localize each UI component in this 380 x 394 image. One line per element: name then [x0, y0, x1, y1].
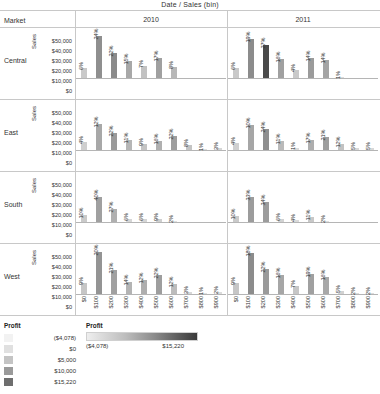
bar[interactable]	[96, 36, 102, 78]
year-header-2010[interactable]: 2010	[76, 13, 226, 27]
bar-slot: 4%	[228, 101, 243, 150]
bar-slot: 3%	[181, 245, 196, 294]
bar-slot: 14%	[318, 29, 333, 78]
profit-legend-discrete: Profit ($4,078)$0$5,000$10,000$15,220	[4, 322, 76, 387]
bar-percent-label: 24%	[93, 28, 99, 39]
year-header-2011[interactable]: 2011	[228, 13, 378, 27]
chart-columns-title: Date / Sales (bin)	[0, 1, 380, 8]
y-axis-tick-label: $50,000	[52, 254, 72, 260]
x-tick-slot: $400	[288, 295, 303, 307]
y-axis-ticks: $50,000$40,000$30,000$20,000$10,000$0	[36, 245, 72, 307]
x-axis-tick-label: $500	[304, 296, 310, 308]
chart-row: WestSales$50,000$40,000$30,000$20,000$10…	[0, 243, 380, 315]
bar-percent-label: 22%	[168, 128, 174, 139]
bar-slot	[348, 29, 363, 78]
y-axis-tick-label: $20,000	[52, 140, 72, 146]
bar-percent-label: 6%	[275, 213, 281, 221]
bar-slot: 5%	[348, 101, 363, 150]
bar-percent-label: 11%	[275, 134, 281, 145]
x-axis-tick-label: $900	[364, 296, 370, 308]
chart-row: EastSales$50,000$40,000$30,000$20,000$10…	[0, 99, 380, 171]
x-tick-slot: $300	[273, 295, 288, 307]
legend-swatch-icon	[4, 356, 13, 364]
legend-entry[interactable]: $5,000	[4, 354, 76, 365]
bar[interactable]	[248, 197, 254, 222]
bar[interactable]	[96, 197, 102, 222]
bar-slot: 12%	[136, 245, 151, 294]
bar-slot: 18%	[243, 245, 258, 294]
bar-percent-label: 7%	[138, 60, 144, 68]
profit-gradient-bar[interactable]	[86, 332, 198, 341]
bar-slot: 2%	[348, 245, 363, 294]
bar-slot: 16%	[151, 101, 166, 150]
row-label-central[interactable]: Central	[4, 57, 27, 64]
y-axis-tick-label: $10,000	[52, 294, 72, 300]
bar-percent-label: 17%	[305, 132, 311, 143]
bar-percent-label: 14%	[320, 52, 326, 63]
x-axis-tick-label: $800	[197, 296, 203, 308]
bar-percent-label: 6%	[138, 213, 144, 221]
bar[interactable]	[111, 53, 117, 78]
bar-slot: 22%	[106, 101, 121, 150]
bar[interactable]	[248, 253, 254, 294]
bar-percent-label: 2%	[213, 286, 219, 294]
y-axis-tick-label: $10,000	[52, 222, 72, 228]
x-tick-slot: $700	[181, 295, 196, 307]
bar-slot: 12%	[91, 101, 106, 150]
y-axis-tick-label: $10,000	[52, 150, 72, 156]
bar-slot: 6%	[273, 173, 288, 222]
bar[interactable]	[96, 124, 102, 150]
bar-percent-label: 1%	[335, 71, 341, 79]
bar-slot: 20%	[91, 245, 106, 294]
bar-slot: 21%	[318, 101, 333, 150]
bar-percent-label: 10%	[245, 117, 251, 128]
legend-entry-label: $0	[17, 346, 76, 352]
bar-group: 4%12%22%11%9%16%22%8%1%3%	[76, 101, 226, 150]
bar[interactable]	[263, 269, 269, 294]
legend-entry[interactable]: ($4,078)	[4, 332, 76, 343]
bar-slot: 40%	[91, 173, 106, 222]
x-axis-tick-label: $100	[92, 296, 98, 308]
bar-percent-label: 22%	[260, 261, 266, 272]
row-label-south[interactable]: South	[4, 201, 22, 208]
x-axis-tick-label: $500	[152, 296, 158, 308]
bar-slot: 34%	[258, 173, 273, 222]
bar-percent-label: 4%	[230, 137, 236, 145]
legend-entry[interactable]: $10,000	[4, 365, 76, 376]
legend-entry[interactable]: $0	[4, 343, 76, 354]
bar[interactable]	[248, 125, 254, 150]
x-tick-slot: $800	[196, 295, 211, 307]
y-axis-tick-label: $30,000	[52, 202, 72, 208]
legend-entry[interactable]: $15,220	[4, 376, 76, 387]
bar-percent-label: 8%	[183, 139, 189, 147]
bar-group: 10%40%27%6%6%9%2%	[76, 173, 226, 222]
bar-percent-label: 19%	[305, 266, 311, 277]
bar-percent-label: 27%	[260, 37, 266, 48]
bar-percent-label: 20%	[93, 244, 99, 255]
x-tick-slot: $400	[136, 295, 151, 307]
bar-percent-label: 7%	[290, 280, 296, 288]
row-label-west[interactable]: West	[4, 273, 20, 280]
bar-percent-label: 15%	[123, 53, 129, 64]
y-axis-tick-label: $30,000	[52, 274, 72, 280]
row-label-east[interactable]: East	[4, 129, 18, 136]
profit-gradient-max-label: $15,220	[162, 343, 184, 349]
bar-slot: 14%	[121, 245, 136, 294]
bar-percent-label: 16%	[153, 133, 159, 144]
bar[interactable]	[96, 252, 102, 294]
bar-percent-label: 17%	[153, 50, 159, 61]
bar[interactable]	[248, 39, 254, 78]
bar-percent-label: 40%	[93, 189, 99, 200]
bar[interactable]	[263, 45, 269, 78]
bar-percent-label: 24%	[260, 121, 266, 132]
bar-slot: 19%	[303, 245, 318, 294]
bar-slot: 11%	[121, 101, 136, 150]
bar-slot: 22%	[258, 245, 273, 294]
bar-slot: 8%	[181, 101, 196, 150]
panel-south-2011: 10%33%34%6%4%11%2%	[228, 173, 378, 235]
bar-percent-label: 1%	[290, 142, 296, 150]
bar-slot	[363, 29, 378, 78]
y-axis-tick-label: $0	[66, 304, 72, 310]
panel-central-2010: 6%24%22%15%7%17%8%	[76, 29, 226, 91]
bar-slot: 9%	[76, 245, 91, 294]
